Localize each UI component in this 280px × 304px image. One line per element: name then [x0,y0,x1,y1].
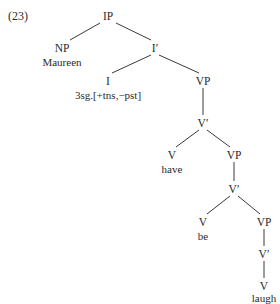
edge-ip-np [70,23,100,40]
node-ip: IP [103,10,113,22]
node-vp-1: VP [196,75,211,87]
node-vp-2: VP [227,149,242,161]
word-laugh: laugh [252,292,276,304]
edge-vbar1-vp2 [207,130,230,147]
edge-ip-ibar [116,23,151,40]
word-maureen: Maureen [42,56,81,68]
node-np: NP [55,42,70,54]
edge-ibar-i [112,55,151,73]
node-vbar-3: V′ [259,248,270,260]
edge-ibar-vp [159,55,199,73]
node-vbar-2: V′ [229,183,240,195]
word-be: be [198,230,208,242]
node-ibar: I′ [152,42,158,54]
node-v-2: V [199,216,207,228]
node-v-1: V [168,149,176,161]
word-have: have [162,163,183,175]
word-3sg-features: 3sg.[+tns,−pst] [75,89,141,101]
edge-vbar2-v2 [207,196,230,214]
node-vp-3: VP [257,216,272,228]
example-number: (23) [8,10,28,23]
node-v-3: V [260,280,268,292]
edge-vbar1-v1 [176,130,199,147]
edge-vbar2-vp3 [238,196,260,214]
node-i: I [106,75,110,87]
node-vbar-1: V′ [198,117,209,129]
